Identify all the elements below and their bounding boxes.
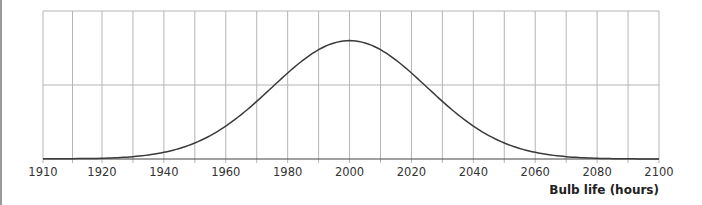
x-tick-label: 1960 (211, 165, 240, 179)
x-tick-label: 1910 (28, 165, 57, 179)
x-tick-label: 2060 (521, 165, 550, 179)
x-tick-label: 2100 (644, 165, 673, 179)
x-tick-label: 1980 (273, 165, 302, 179)
x-tick-label: 2040 (459, 165, 488, 179)
x-tick-label: 1940 (149, 165, 178, 179)
x-tick-label: 2000 (335, 165, 364, 179)
x-tick-label: 1920 (87, 165, 116, 179)
bulb-life-chart: 1910192019401960198020002020204020602080… (0, 0, 702, 205)
x-axis-title: Bulb life (hours) (549, 183, 659, 197)
x-tick-label: 2020 (397, 165, 426, 179)
x-tick-label: 2080 (582, 165, 611, 179)
grid-lines (43, 11, 659, 163)
x-tick-labels: 1910192019401960198020002020204020602080… (28, 165, 673, 179)
